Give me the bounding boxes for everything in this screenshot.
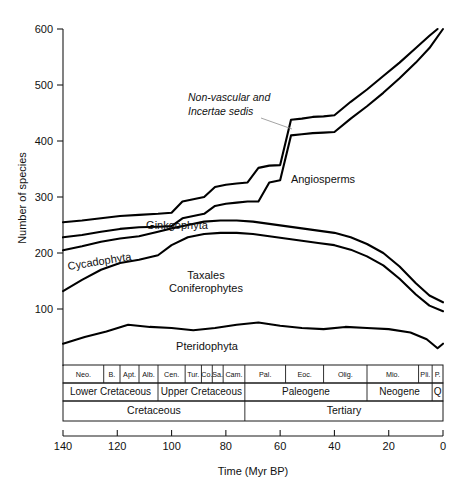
strat-stage-label: Tur. (187, 370, 199, 379)
strat-epoch-label: Lower Cretaceous (70, 386, 151, 397)
strat-epoch-label: Paleogene (282, 386, 330, 397)
annotation-nonvascular-line1: Non-vascular and (188, 91, 271, 103)
strat-stage-label: Co. (201, 370, 212, 379)
x-tick-label: 0 (440, 440, 446, 452)
series-label-taxales: Taxales (187, 269, 225, 281)
strat-stage-label: Olig. (338, 370, 353, 379)
series-label-coniferophytes: Coniferophytes (169, 282, 243, 294)
species-diversity-chart: 100200300400500600 Number of species Ang… (0, 0, 466, 483)
strat-stage-label: Cen. (164, 370, 179, 379)
y-tick-label: 500 (35, 79, 53, 91)
strat-stage-label: B. (108, 370, 115, 379)
x-tick-label: 40 (328, 440, 340, 452)
strat-stage-label: Eoc. (297, 370, 311, 379)
strat-stage-label: Pli. (420, 370, 430, 379)
strat-stage-label: Mio. (386, 370, 400, 379)
y-tick-label: 400 (35, 135, 53, 147)
strat-period-label: Tertiary (327, 404, 362, 416)
y-tick-label: 200 (35, 247, 53, 259)
strat-stage-label: Sa. (212, 370, 223, 379)
y-tick-label: 300 (35, 191, 53, 203)
x-tick-label: 80 (220, 440, 232, 452)
series-label-pteridophyta: Pteridophyta (176, 340, 239, 352)
strat-stage-label: Apt. (123, 370, 136, 379)
strat-stage-label: Cam. (225, 370, 242, 379)
strat-stage-label: Alb. (142, 370, 154, 379)
x-tick-label: 120 (108, 440, 126, 452)
curve-series-3 (63, 233, 443, 311)
y-tick-label: 600 (35, 23, 53, 35)
x-axis-title: Time (Myr BP) (218, 465, 288, 477)
figure-container: 100200300400500600 Number of species Ang… (0, 0, 466, 483)
y-tick-label: 100 (35, 303, 53, 315)
curve-series-0 (63, 29, 438, 222)
x-tick-label: 100 (162, 440, 180, 452)
strat-stage-label: Neo. (76, 370, 91, 379)
x-tick-label: 60 (274, 440, 286, 452)
y-axis-ticks (57, 29, 63, 309)
x-tick-label: 140 (54, 440, 72, 452)
strat-epoch-label: Upper Cretaceous (161, 386, 242, 397)
stratigraphic-column: Neo.B.Apt.Alb.Cen.Tur.Co.Sa.Cam.Pal.Eoc.… (63, 365, 443, 421)
strat-stage-label: P. (435, 370, 441, 379)
strat-stage-label: Pal. (259, 370, 271, 379)
x-tick-label: 20 (383, 440, 395, 452)
series-label-ginkgophyta: Ginkgophyta (146, 219, 209, 231)
strat-period-label: Cretaceous (127, 404, 181, 416)
data-curves-group (63, 29, 443, 348)
annotation-leader-line (261, 118, 292, 129)
strat-period-row (63, 401, 443, 421)
y-axis-title: Number of species (16, 152, 28, 244)
series-label-angiosperms: Angiosperms (291, 173, 356, 185)
y-axis-tick-labels: 100200300400500600 (35, 23, 53, 315)
x-axis-tick-labels: 140120100806040200 (54, 440, 446, 452)
series-label-cycadophyta: Cycadophyta (67, 250, 133, 272)
annotation-nonvascular-line2: Incertae sedis (188, 105, 254, 117)
curve-series-4 (63, 322, 443, 348)
strat-epoch-label: Neogene (379, 386, 420, 397)
x-axis-ticks (63, 430, 443, 436)
curve-series-1 (63, 29, 443, 237)
strat-epoch-label: Q (434, 386, 442, 397)
